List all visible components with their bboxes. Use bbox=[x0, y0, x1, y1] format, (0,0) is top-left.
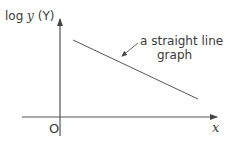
x-axis-label: x bbox=[212, 120, 220, 135]
origin-label: O bbox=[49, 121, 59, 136]
annotation-line-1: a straight line bbox=[140, 34, 223, 48]
annotation-line-2: graph bbox=[157, 48, 192, 62]
y-axis-label: log y (Y) bbox=[5, 9, 54, 23]
straight-line-graph-diagram: log y (Y) a straight line graph O x bbox=[0, 0, 230, 141]
annotation-arrow bbox=[122, 43, 138, 56]
